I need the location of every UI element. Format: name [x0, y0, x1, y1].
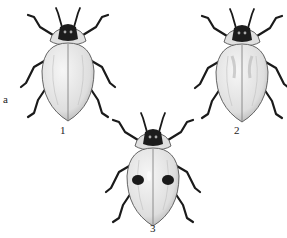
side-label-a: a — [3, 93, 8, 105]
specimen-number-1: 1 — [60, 124, 66, 136]
beetle-specimen-2 — [192, 6, 287, 126]
specimen-number-3: 3 — [150, 222, 156, 234]
specimen-number-2: 2 — [234, 124, 240, 136]
beetle-specimen-3 — [103, 110, 203, 230]
beetle-specimen-1 — [18, 5, 118, 125]
